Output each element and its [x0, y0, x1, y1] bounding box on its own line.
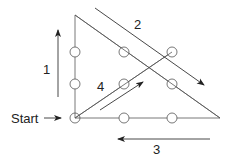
- start-label: Start: [11, 111, 39, 126]
- step-3-label: 3: [153, 142, 160, 157]
- nine-dots-diagram: Start 1 2 3 4: [0, 0, 230, 163]
- dot: [167, 113, 177, 123]
- step-2-label: 2: [134, 17, 141, 32]
- arrow-2-icon: [95, 8, 204, 85]
- dot: [70, 79, 80, 89]
- dot: [70, 47, 80, 57]
- step-1-label: 1: [43, 62, 50, 77]
- dot: [119, 113, 129, 123]
- step-4-label: 4: [97, 79, 104, 94]
